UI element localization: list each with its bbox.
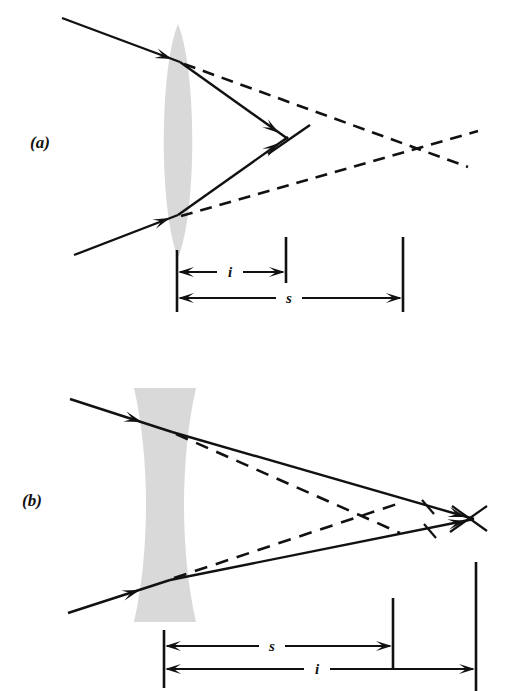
figure-background xyxy=(0,0,517,691)
dimension-label-s: s xyxy=(268,638,275,654)
panel-label-b: (b) xyxy=(22,491,42,510)
dimension-label-s: s xyxy=(285,290,292,306)
optics-figure: i s (a) xyxy=(0,0,517,691)
ray-diagram-canvas: i s (a) xyxy=(0,0,517,691)
panel-label-a: (a) xyxy=(30,133,50,152)
